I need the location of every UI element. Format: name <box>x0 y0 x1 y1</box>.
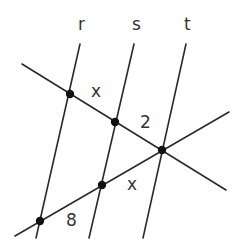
transversal-lower <box>15 112 229 236</box>
segment-label-2: 2 <box>140 112 151 132</box>
line-label-t: t <box>184 14 191 34</box>
parallel-lines <box>36 44 186 238</box>
intersection-point <box>158 146 166 154</box>
segment-label-x-lower: x <box>127 174 137 194</box>
line-s <box>89 44 134 238</box>
line-label-r: r <box>78 14 85 34</box>
parallel-lines-diagram: r s t x 2 x 8 <box>0 0 243 249</box>
line-r <box>36 44 80 238</box>
intersection-point <box>36 217 44 225</box>
transversals <box>15 64 229 236</box>
intersection-point <box>111 118 119 126</box>
line-label-s: s <box>132 14 141 34</box>
segment-label-8: 8 <box>66 210 77 230</box>
intersection-point <box>66 90 74 98</box>
intersection-point <box>98 181 106 189</box>
segment-label-x-upper: x <box>91 81 101 101</box>
intersection-points <box>36 90 166 225</box>
transversal-upper <box>22 64 226 190</box>
line-labels: r s t <box>78 14 191 34</box>
